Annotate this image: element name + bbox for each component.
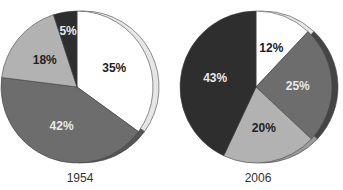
- chart-stage: 35%42%18%5%12%25%20%43% 1954 2006: [0, 0, 343, 190]
- pie-2006: 12%25%20%43%: [180, 11, 338, 163]
- slice-label: 12%: [259, 41, 283, 55]
- slice-label: 25%: [286, 79, 310, 93]
- slice-label: 20%: [252, 121, 276, 135]
- slice-label: 43%: [203, 71, 227, 85]
- slice-label: 18%: [33, 53, 57, 67]
- pie-chart-1954: 35%42%18%5%12%25%20%43%: [0, 0, 343, 190]
- slice-label: 35%: [102, 61, 126, 75]
- slice-label: 42%: [50, 119, 74, 133]
- pie-1954: 35%42%18%5%: [1, 11, 159, 163]
- slice-label: 5%: [59, 24, 77, 38]
